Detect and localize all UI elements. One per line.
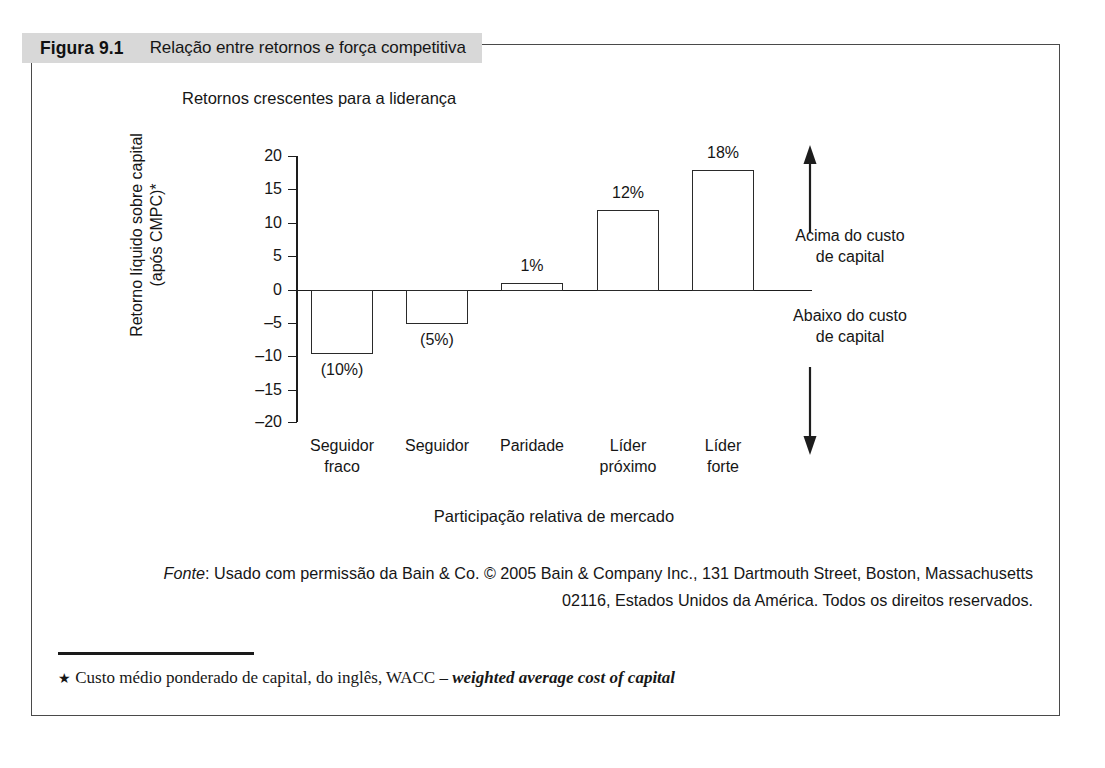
y-tick-neg20 [288, 422, 297, 423]
chart-area: Retornos crescentes para a liderança Ret… [32, 45, 1061, 717]
y-tick-neg5 [288, 323, 297, 324]
arrow-down-icon [802, 365, 818, 455]
y-tick-label-0: 0 [236, 282, 282, 298]
bar-paridade[interactable] [501, 283, 563, 291]
x-category-seguidor-fraco-line1: Seguidor [310, 437, 374, 454]
x-category-lider-proximo: Líder próximo [583, 435, 673, 477]
annotation-below-line2: de capital [816, 328, 885, 345]
plot-canvas: 20 15 10 5 0 –5 –10 –15 –20 (10%) (5%) 1… [32, 45, 1061, 717]
y-tick-0 [288, 290, 297, 291]
bar-label-lider-proximo: 12% [597, 184, 659, 202]
bar-seguidor[interactable] [406, 290, 468, 324]
y-tick-label-neg15: –15 [236, 382, 282, 398]
y-tick-label-neg5: –5 [236, 315, 282, 331]
x-category-lider-forte-line2: forte [707, 458, 739, 475]
figure-frame: Retornos crescentes para a liderança Ret… [31, 44, 1060, 716]
y-axis-line [296, 156, 298, 422]
figure-title-banner: Figura 9.1 Relação entre retornos e forç… [22, 33, 482, 63]
y-tick-20 [288, 156, 297, 157]
annotation-above-cost-of-capital: Acima do custo de capital [770, 225, 930, 267]
bar-label-lider-forte: 18% [692, 144, 754, 162]
x-category-lider-proximo-line2: próximo [600, 458, 657, 475]
x-category-seguidor: Seguidor [392, 435, 482, 456]
bar-label-seguidor: (5%) [406, 331, 468, 349]
x-axis-title: Participação relativa de mercado [296, 507, 812, 526]
bar-label-paridade: 1% [501, 257, 563, 275]
y-tick-label-5: 5 [236, 248, 282, 264]
x-category-lider-proximo-line1: Líder [610, 437, 646, 454]
x-category-seguidor-fraco-line2: fraco [324, 458, 360, 475]
x-category-paridade-line1: Paridade [500, 437, 564, 454]
y-tick-10 [288, 223, 297, 224]
y-tick-label-10: 10 [236, 215, 282, 231]
annotation-below-line1: Abaixo do custo [793, 307, 907, 324]
x-category-seguidor-fraco: Seguidor fraco [297, 435, 387, 477]
bar-seguidor-fraco[interactable] [311, 290, 373, 354]
annotation-below-cost-of-capital: Abaixo do custo de capital [770, 305, 930, 347]
y-tick-label-neg20: –20 [236, 414, 282, 430]
footnote-text: Custo médio ponderado de capital, do ing… [75, 668, 452, 687]
bar-lider-forte[interactable] [692, 170, 754, 291]
annotation-above-line2: de capital [816, 248, 885, 265]
x-category-seguidor-line1: Seguidor [405, 437, 469, 454]
bar-lider-proximo[interactable] [597, 210, 659, 291]
y-tick-15 [288, 189, 297, 190]
footnote-divider [58, 652, 254, 655]
y-tick-5 [288, 256, 297, 257]
y-tick-labels: 20 15 10 5 0 –5 –10 –15 –20 [228, 45, 282, 717]
y-tick-label-15: 15 [236, 181, 282, 197]
arrow-up-icon [802, 145, 818, 235]
footnote: ★ Custo médio ponderado de capital, do i… [58, 667, 1018, 689]
footnote-term: weighted average cost of capital [452, 668, 675, 687]
source-line1: : Usado com permissão da Bain & Co. © 20… [205, 564, 1033, 582]
y-tick-neg10 [288, 356, 297, 357]
x-category-lider-forte: Líder forte [678, 435, 768, 477]
annotation-above-line1: Acima do custo [795, 227, 904, 244]
source-label: Fonte [164, 564, 205, 582]
bar-label-seguidor-fraco: (10%) [311, 361, 373, 379]
footnote-marker-icon: ★ [58, 670, 71, 686]
figure-number: Figura 9.1 [40, 38, 124, 59]
y-tick-neg15 [288, 390, 297, 391]
source-note: Fonte: Usado com permissão da Bain & Co.… [58, 560, 1033, 614]
figure-title: Relação entre retornos e força competiti… [150, 38, 466, 58]
x-category-paridade: Paridade [487, 435, 577, 456]
source-line2: 02116, Estados Unidos da América. Todos … [562, 591, 1033, 609]
y-tick-label-neg10: –10 [236, 348, 282, 364]
x-category-lider-forte-line1: Líder [705, 437, 741, 454]
y-tick-label-20: 20 [236, 148, 282, 164]
